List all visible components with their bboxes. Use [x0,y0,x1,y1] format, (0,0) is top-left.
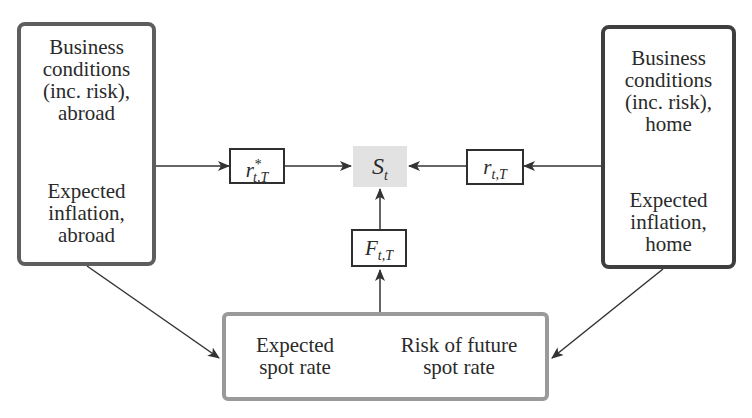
expected-spot-rate-text: Expected spot rate [240,334,350,378]
spot-rate-node: St [353,146,407,187]
abroad-conditions-box: Business conditions (inc. risk), abroad … [17,22,156,266]
arrow-abroad-to-bottom [87,266,219,358]
foreign-interest-rate-node: r*t,T [229,148,285,184]
forward-rate-node: Ft,T [351,229,407,267]
home-expected-inflation-text: Expected inflation, home [605,189,732,255]
home-interest-rate-node: rt,T [466,149,524,185]
arrow-home-to-bottom [552,269,663,358]
home-business-conditions-text: Business conditions (inc. risk), home [605,47,732,135]
home-conditions-box: Business conditions (inc. risk), home Ex… [601,25,736,269]
expectations-box: Expected spot rate Risk of future spot r… [222,312,549,401]
abroad-business-conditions-text: Business conditions (inc. risk), abroad [21,36,152,124]
abroad-expected-inflation-text: Expected inflation, abroad [21,180,152,246]
risk-future-spot-rate-text: Risk of future spot rate [379,334,539,378]
